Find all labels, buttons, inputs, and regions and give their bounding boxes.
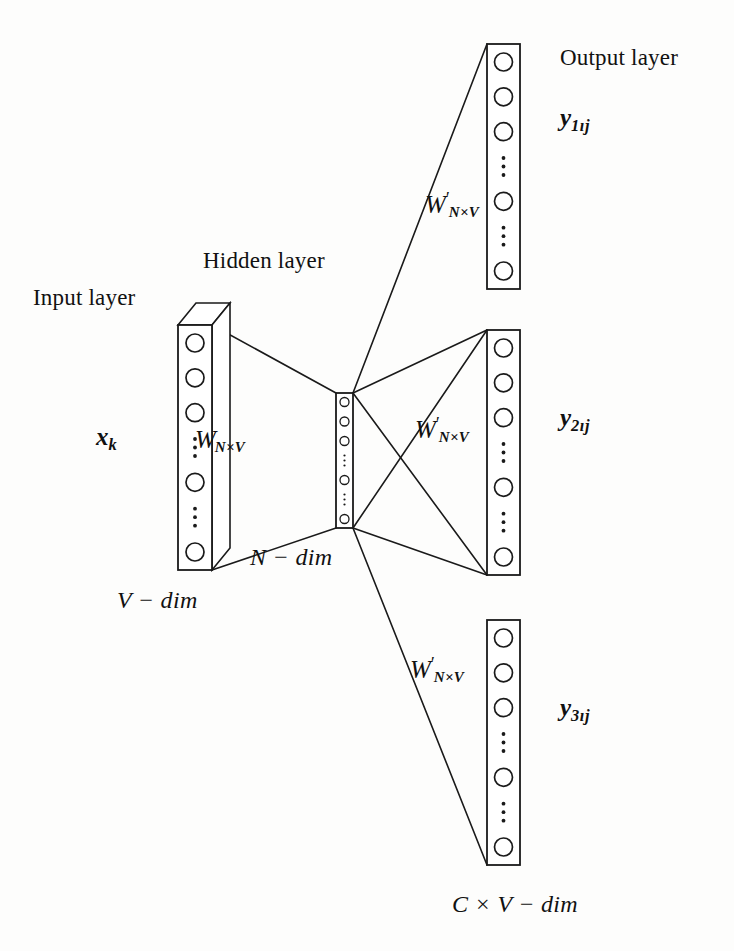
output-layer-column-3-node [495, 768, 513, 786]
hidden-layer-column-node [340, 398, 349, 407]
output-layer-column-1-vdots-dot [502, 234, 506, 238]
output-layer-column-3-vdots-dot [502, 802, 506, 806]
weight-hidden-to-output-2-label: W′N×V [415, 415, 469, 445]
output-layer-column-3-vdots-dot [502, 810, 506, 814]
hidden-layer-column-vdots-dot [343, 498, 345, 500]
output-layer-column-1-node [495, 53, 513, 71]
output-layer-column-1-node [495, 192, 513, 210]
output-layer-column-2-vdots-dot [502, 529, 506, 533]
neural-network-diagram: Input layer Hidden layer Output layer xk… [0, 0, 734, 951]
output-dimension-label: C × V − dim [452, 892, 578, 916]
output-layer-column-1-vdots-dot [502, 156, 506, 160]
output-layer-column-3-vdots-dot [502, 819, 506, 823]
output-layer-column-1-node [495, 88, 513, 106]
output-2-subscript: 2ıj [571, 416, 590, 435]
output-layer-column-2-node [495, 478, 513, 496]
output-layer-column-2-vdots-dot [502, 512, 506, 516]
output-3-subscript: 3ıj [571, 706, 590, 725]
hidden-dimension-label: N − dim [250, 545, 332, 569]
output-1-base: y [560, 104, 571, 131]
input-vector-base: x [96, 423, 109, 450]
diagram-canvas [0, 0, 734, 951]
output-2-base: y [560, 404, 571, 431]
output-layer-column-1-vdots-dot [502, 226, 506, 230]
output-layer-column-3-vdots-dot [502, 741, 506, 745]
output-layer-column-3-node [495, 699, 513, 717]
weight-in-subscript: N×V [215, 439, 245, 455]
output-layer-column-2-vdots-dot [502, 520, 506, 524]
hidden-layer-column-node [340, 417, 349, 426]
output-layer-column-3-vdots-dot [502, 749, 506, 753]
output-layer-column-2-vdots-dot [502, 459, 506, 463]
hidden-layer-column-node [340, 476, 349, 485]
hidden-layer-column-node [340, 515, 349, 524]
hidden-layer-column-vdots-dot [343, 493, 345, 495]
weight-hidden-to-output-1-label: W′N×V [425, 190, 479, 220]
output-layer-column-1 [487, 44, 520, 289]
hidden-layer-column-node [340, 437, 349, 446]
input-layer-column-vdots-dot [193, 524, 197, 528]
output-layer-column-2-node [495, 409, 513, 427]
output-layer-column-2-node [495, 548, 513, 566]
input-layer-column-node [186, 473, 204, 491]
output-2-variable: y2ıj [560, 405, 590, 434]
output-layer-column-1-vdots-dot [502, 173, 506, 177]
weight-out1-base: W [425, 191, 446, 218]
output-1-subscript: 1ıj [571, 116, 590, 135]
hidden-layer-column-vdots-dot [343, 454, 345, 456]
output-layer-column-2-vdots-dot [502, 442, 506, 446]
output-layer-column-3 [487, 620, 520, 865]
weight-input-to-hidden-label: WN×V [195, 425, 245, 455]
output-layer-column-3-vdots-dot [502, 732, 506, 736]
output-layer-column-1-node [495, 123, 513, 141]
hidden-layer-column-vdots-dot [343, 459, 345, 461]
input-layer-column-node [186, 334, 204, 352]
output-1-variable: y1ıj [560, 105, 590, 134]
input-dimension-label: V − dim [117, 588, 198, 612]
weight-in-base: W [195, 426, 216, 453]
input-layer-label: Input layer [33, 286, 135, 309]
output-layer-column-3-node [495, 629, 513, 647]
hidden-layer-column-vdots-dot [343, 503, 345, 505]
output-layer-column-1-vdots-dot [502, 165, 506, 169]
hidden-layer-column-vdots-dot [343, 464, 345, 466]
weight-out1-subscript: N×V [449, 204, 479, 220]
output-layer-column-2-node [495, 374, 513, 392]
input-layer-column-vdots-dot [193, 507, 197, 511]
input-layer-column-vdots-dot [193, 515, 197, 519]
input-layer-column-node [186, 369, 204, 387]
input-vector-subscript: k [109, 435, 118, 454]
input-layer-column-node [186, 404, 204, 422]
hidden-layer-label: Hidden layer [203, 249, 325, 272]
weight-out2-base: W [415, 416, 436, 443]
output-layer-column-2-node [495, 339, 513, 357]
hidden-layer-column [336, 393, 353, 528]
output-layer-column-2-vdots-dot [502, 451, 506, 455]
output-layer-column-2 [487, 330, 520, 575]
output-layer-column-1-node [495, 262, 513, 280]
output-layer-label: Output layer [560, 46, 678, 69]
output-layer-column-1-vdots-dot [502, 243, 506, 247]
weight-out2-subscript: N×V [439, 429, 469, 445]
connection-hidden-output-6 [353, 528, 487, 865]
input-layer-column-node [186, 543, 204, 561]
output-3-base: y [560, 694, 571, 721]
output-layer-column-3-node [495, 838, 513, 856]
connection-hidden-output-5 [353, 528, 487, 575]
weight-out3-base: W [410, 656, 431, 683]
output-layer-column-3-node [495, 664, 513, 682]
input-vector-variable: xk [96, 424, 117, 453]
weight-hidden-to-output-3-label: W′N×V [410, 655, 464, 685]
weight-out3-subscript: N×V [434, 669, 464, 685]
output-3-variable: y3ıj [560, 695, 590, 724]
